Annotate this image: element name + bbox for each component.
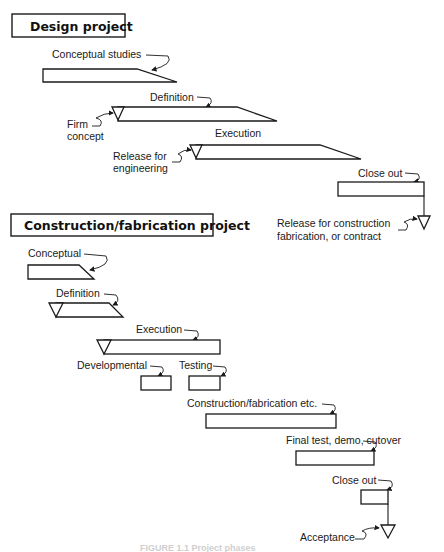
phase-execution-construction: Execution: [97, 323, 220, 354]
construction-project-section: Construction/fabrication project Concept…: [11, 214, 401, 543]
phase-bar: [28, 265, 94, 279]
svg-text:Release for construction: Release for construction: [277, 217, 390, 229]
milestone-triangle-icon: [418, 216, 430, 229]
svg-text:Acceptance: Acceptance: [300, 531, 355, 543]
phase-bar: [361, 490, 388, 504]
phase-label: Close out: [358, 167, 402, 179]
phase-label: Final test, demo, cutover: [286, 434, 401, 446]
project-phases-diagram: Design project Conceptual studies Defini…: [0, 0, 444, 552]
phase-testing: Testing: [179, 359, 226, 390]
phase-label: Conceptual: [28, 247, 81, 259]
phase-label: Close out: [332, 474, 376, 486]
phase-final-test: Final test, demo, cutover: [286, 434, 401, 465]
phase-close-out-construction: Close out: [332, 474, 395, 538]
phase-developmental: Developmental: [77, 359, 171, 390]
phase-label: Construction/fabrication etc.: [187, 397, 317, 409]
svg-text:fabrication, or contract: fabrication, or contract: [277, 230, 381, 242]
phase-bar: [141, 376, 171, 390]
phase-construction-fabrication: Construction/fabrication etc.: [187, 397, 336, 428]
construction-project-title: Construction/fabrication project: [24, 218, 250, 233]
milestone-release-for-construction: Release for construction fabrication, or…: [277, 217, 417, 242]
figure-caption: FIGURE 1.1 Project phases: [140, 543, 256, 552]
phase-bar: [104, 340, 220, 354]
phase-label: Execution: [136, 323, 182, 335]
milestone-release-for-engineering: Release for engineering: [113, 150, 191, 174]
phase-label: Definition: [56, 287, 100, 299]
phase-execution: Execution: [190, 127, 361, 159]
phase-conceptual-studies: Conceptual studies: [43, 48, 177, 82]
phase-definition-construction: Definition: [49, 287, 123, 317]
phase-bar: [189, 376, 220, 390]
milestone-firm-concept: Firm concept: [67, 113, 113, 142]
phase-bar: [338, 182, 424, 196]
phase-bar: [43, 69, 177, 82]
phase-bar: [118, 107, 277, 121]
design-project-section: Design project Conceptual studies Defini…: [12, 14, 430, 242]
phase-bar: [196, 145, 361, 159]
phase-bar: [56, 303, 123, 317]
phase-label: Definition: [150, 91, 194, 103]
milestone-triangle-icon: [381, 525, 395, 538]
phase-label: Testing: [179, 359, 212, 371]
svg-text:concept: concept: [67, 130, 104, 142]
phase-label: Execution: [215, 127, 261, 139]
phase-definition: Definition: [112, 91, 277, 121]
design-project-title: Design project: [30, 19, 133, 34]
phase-conceptual: Conceptual: [28, 247, 107, 279]
svg-text:engineering: engineering: [113, 162, 168, 174]
svg-text:Firm: Firm: [67, 118, 88, 130]
milestone-acceptance: Acceptance: [300, 528, 379, 543]
phase-label: Conceptual studies: [52, 48, 141, 60]
svg-text:Release for: Release for: [113, 150, 167, 162]
phase-bar: [206, 414, 336, 428]
phase-bar: [296, 451, 374, 465]
phase-label: Developmental: [77, 359, 147, 371]
